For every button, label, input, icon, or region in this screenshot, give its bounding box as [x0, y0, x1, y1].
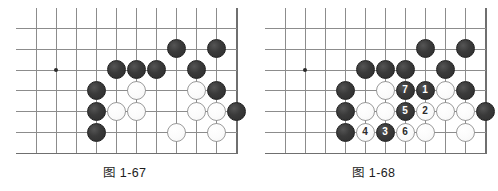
- stone-move-number: 3: [382, 127, 388, 137]
- stone-white-right-17: [436, 81, 455, 100]
- stone-white-right-16: [376, 81, 395, 100]
- stone-white-left-18: [167, 123, 186, 142]
- stone-black-left-1: [107, 60, 126, 79]
- stone-black-left-5: [207, 39, 226, 58]
- stone-move-number: 2: [422, 106, 428, 116]
- stones-right: 7153246: [265, 8, 491, 156]
- stone-black-left-2: [127, 60, 146, 79]
- stone-move-number: 5: [402, 106, 408, 116]
- stone-white-right-23: [456, 123, 475, 142]
- stone-black-numbered-7-right: 7: [396, 81, 415, 100]
- stone-white-right-22: [416, 123, 435, 142]
- stone-black-left-6: [187, 60, 206, 79]
- go-board-left: [16, 8, 242, 156]
- stone-move-number: 7: [402, 85, 408, 95]
- stone-white-numbered-2-right: 2: [416, 102, 435, 121]
- stone-white-right-21: [456, 102, 475, 121]
- stone-black-left-7: [87, 81, 106, 100]
- stone-black-left-9: [87, 102, 106, 121]
- stone-white-right-20: [436, 102, 455, 121]
- stone-white-left-17: [207, 102, 226, 121]
- stone-white-left-15: [127, 102, 146, 121]
- stone-black-right-11: [336, 123, 355, 142]
- go-diagram-page: 图 1-67 7153246 图 1-68: [0, 0, 498, 191]
- stone-black-right-1: [356, 60, 375, 79]
- figure-caption-right: 图 1-68: [249, 162, 498, 181]
- stone-white-right-18: [356, 102, 375, 121]
- stone-move-number: 4: [362, 127, 368, 137]
- stone-black-right-7: [336, 81, 355, 100]
- stone-black-right-3: [396, 60, 415, 79]
- stone-black-numbered-5-right: 5: [396, 102, 415, 121]
- stone-black-right-2: [376, 60, 395, 79]
- stone-white-right-19: [376, 102, 395, 121]
- stone-black-left-10: [227, 102, 246, 121]
- stone-move-number: 1: [422, 85, 428, 95]
- figure-caption-left: 图 1-67: [0, 162, 249, 181]
- stone-white-left-16: [187, 102, 206, 121]
- stone-black-right-8: [456, 81, 475, 100]
- stone-black-numbered-3-right: 3: [376, 123, 395, 142]
- stone-black-right-5: [456, 39, 475, 58]
- stone-black-left-8: [207, 81, 226, 100]
- stone-white-numbered-4-right: 4: [356, 123, 375, 142]
- stones-left: [16, 8, 242, 156]
- stone-white-left-12: [127, 81, 146, 100]
- stone-move-number: 6: [402, 127, 408, 137]
- stone-black-left-11: [87, 123, 106, 142]
- stone-black-left-4: [167, 39, 186, 58]
- figure-1-68: 7153246 图 1-68: [249, 0, 498, 191]
- stone-black-left-3: [147, 60, 166, 79]
- stone-black-numbered-1-right: 1: [416, 81, 435, 100]
- stone-white-left-13: [187, 81, 206, 100]
- stone-black-right-4: [416, 39, 435, 58]
- go-board-right: 7153246: [265, 8, 491, 156]
- stone-black-right-10: [476, 102, 495, 121]
- stone-white-left-19: [207, 123, 226, 142]
- figure-1-67: 图 1-67: [0, 0, 249, 191]
- stone-white-left-14: [107, 102, 126, 121]
- stone-white-numbered-6-right: 6: [396, 123, 415, 142]
- stone-black-right-6: [436, 60, 455, 79]
- stone-black-right-9: [336, 102, 355, 121]
